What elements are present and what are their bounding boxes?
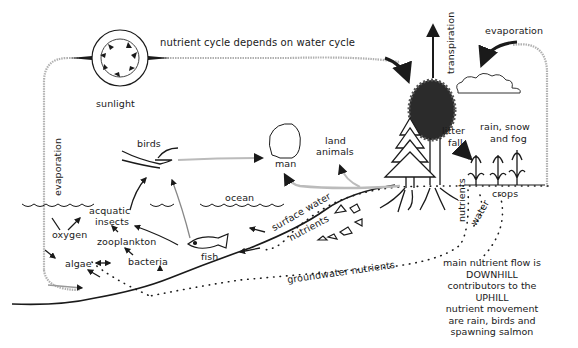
fish-to-birds-arrow bbox=[172, 180, 190, 238]
label-fish: fish bbox=[201, 251, 218, 262]
note-line: nutrient movement bbox=[432, 303, 552, 315]
to-algae-arrow bbox=[88, 270, 100, 277]
groundwater-to-evap-arrow bbox=[48, 285, 82, 288]
label-man: man bbox=[275, 158, 296, 169]
bird-icon bbox=[122, 148, 178, 168]
tree-to-land-animals-arrow bbox=[340, 166, 360, 187]
crops-icon bbox=[468, 150, 525, 185]
label-bacteria: bacteria bbox=[128, 256, 168, 267]
sun-icon bbox=[70, 30, 170, 86]
surface-to-water-arrow bbox=[250, 228, 265, 232]
diagram-title: nutrient cycle depends on water cycle bbox=[160, 37, 355, 48]
label-transpiration: transpiration bbox=[445, 12, 456, 74]
label-fall: fall bbox=[448, 137, 463, 148]
note-line: contributors to the bbox=[432, 280, 552, 292]
label-evaporation-left: evaporation bbox=[52, 138, 63, 196]
litter-fall-arrow bbox=[462, 150, 470, 158]
nutrient-flow-note: main nutrient flow is DOWNHILL contribut… bbox=[432, 257, 552, 338]
evap-to-algae-arrow bbox=[45, 250, 55, 258]
label-birds: birds bbox=[137, 138, 161, 149]
label-crops: crops bbox=[492, 188, 518, 199]
cloud-icon bbox=[457, 73, 521, 93]
birds-to-man-arrow bbox=[178, 158, 262, 160]
label-acquatic: acquatic bbox=[89, 205, 130, 216]
label-evaporation-right: evaporation bbox=[485, 25, 543, 36]
label-sunlight: sunlight bbox=[96, 98, 135, 109]
label-insects: insects bbox=[95, 216, 129, 227]
fish-icon bbox=[188, 234, 228, 248]
note-line: main nutrient flow is bbox=[432, 257, 552, 269]
note-line: spawning salmon bbox=[432, 326, 552, 338]
label-nutrients-vertical: nutrients bbox=[456, 178, 467, 222]
label-litter: litter bbox=[442, 125, 465, 136]
label-fog: and fog bbox=[490, 133, 527, 144]
bacteria-to-zooplankton-arrow bbox=[125, 248, 133, 255]
insects-to-birds-arrow bbox=[130, 178, 146, 210]
label-oxygen: oxygen bbox=[52, 229, 87, 240]
label-land: land bbox=[325, 135, 346, 146]
man-head-icon bbox=[269, 124, 300, 158]
tree-to-man-arrow bbox=[285, 175, 400, 188]
note-line: UPHILL bbox=[432, 292, 552, 304]
note-line: are rain, birds and bbox=[432, 315, 552, 327]
label-rain: rain, snow bbox=[480, 121, 530, 132]
label-algae: algae bbox=[65, 258, 92, 269]
label-animals: animals bbox=[316, 146, 354, 157]
evaporation-arrow-right bbox=[482, 42, 517, 64]
ocean-waves bbox=[22, 204, 284, 207]
label-ocean: ocean bbox=[225, 192, 254, 203]
label-zooplankton: zooplankton bbox=[97, 236, 156, 247]
note-line: DOWNHILL bbox=[432, 269, 552, 281]
roots bbox=[380, 188, 458, 212]
